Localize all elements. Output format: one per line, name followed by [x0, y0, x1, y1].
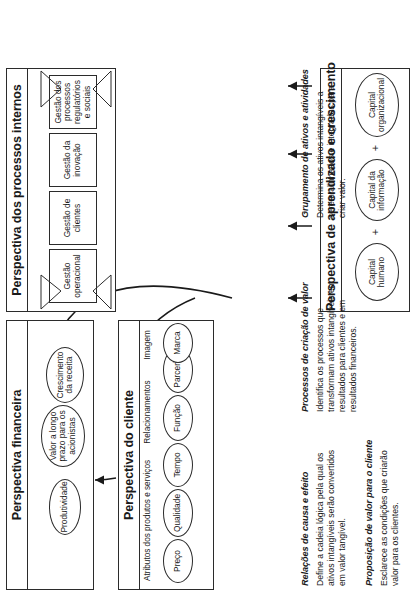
- panel-title-financeira: Perspectiva financeira: [7, 321, 28, 589]
- group-label-relacionamentos: Relacionamentos: [143, 375, 152, 449]
- node-valor-longo-prazo[interactable]: Valor a longo prazo para os acionistas: [41, 405, 85, 467]
- node-tempo[interactable]: Tempo: [163, 443, 193, 487]
- panel-perspectiva-financeira[interactable]: Perspectiva financeira Valor a longo pra…: [6, 320, 94, 590]
- note-heading: Proposição de valor para o cliente: [364, 436, 375, 586]
- panel-title-processos: Perspectiva dos processos internos: [7, 69, 28, 311]
- node-gestao-inovacao[interactable]: Gestão da inovação: [49, 133, 97, 187]
- note-body: Determina os ativos intangíveis a serem …: [315, 68, 348, 218]
- node-preco[interactable]: Preço: [163, 539, 193, 583]
- operator-plus-2: +: [369, 141, 381, 155]
- node-gestao-processos-regulatorios[interactable]: Gestão dos processos regulatórios e soci…: [49, 75, 97, 129]
- note-heading: Relações de causa e efeito: [300, 436, 311, 586]
- note-relacoes-causa-efeito: Relações de causa e efeito Define a cade…: [300, 436, 348, 586]
- note-proposicao-valor-cliente: Proposição de valor para o cliente Escla…: [364, 436, 401, 586]
- node-crescimento-receita[interactable]: Crescimento da receita: [46, 347, 84, 403]
- node-qualidade[interactable]: Qualidade: [163, 489, 193, 537]
- note-body: Esclarece as condições que criarão valor…: [379, 436, 401, 586]
- operator-plus-1: +: [369, 225, 381, 239]
- panel-perspectiva-do-cliente[interactable]: Perspectiva do cliente Atributos dos pro…: [118, 320, 214, 590]
- note-grupamento-ativos-atividades: Grupamento de ativos e atividades Determ…: [300, 68, 348, 218]
- panel-title-cliente: Perspectiva do cliente: [119, 321, 140, 589]
- panel-perspectiva-processos-internos[interactable]: Perspectiva dos processos internos Gestã…: [6, 68, 116, 312]
- note-heading: Processos de criação de valor: [300, 262, 311, 412]
- diagram-stage: Perspectiva financeira Valor a longo pra…: [0, 0, 417, 598]
- node-gestao-operacional[interactable]: Gestão operacional: [49, 249, 97, 303]
- node-capital-informacao[interactable]: Capital da informação: [355, 159, 399, 221]
- strategy-map-canvas: Perspectiva financeira Valor a longo pra…: [0, 0, 417, 598]
- group-label-imagem: Imagem: [143, 323, 152, 367]
- node-gestao-clientes[interactable]: Gestão de clientes: [49, 191, 97, 245]
- node-capital-humano[interactable]: Capital humano: [355, 243, 399, 301]
- note-heading: Grupamento de ativos e atividades: [300, 68, 311, 218]
- note-body: Identifica os processos que transformam …: [315, 262, 359, 412]
- group-label-atributos: Atributos dos produtos e serviços: [143, 461, 152, 581]
- node-produtividade[interactable]: Produtividade: [49, 479, 81, 535]
- node-marca[interactable]: Marca: [163, 323, 193, 363]
- note-body: Define a cadeia lógica pela qual os ativ…: [315, 436, 348, 586]
- note-processos-criacao-valor: Processos de criação de valor Identifica…: [300, 262, 359, 412]
- node-funcao[interactable]: Função: [163, 395, 193, 441]
- node-capital-organizacional[interactable]: Capital organizacional: [355, 73, 399, 137]
